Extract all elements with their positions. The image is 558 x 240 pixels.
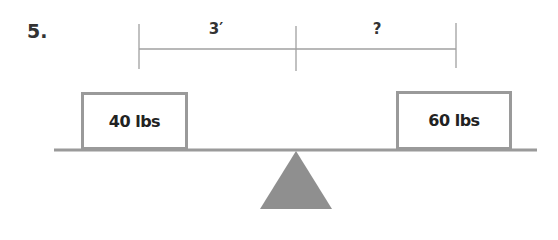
left-weight-box: 40 lbs <box>81 92 188 150</box>
fulcrum-triangle <box>260 151 332 209</box>
problem-number: 5. <box>27 20 47 42</box>
dimension-line <box>139 23 456 71</box>
right-weight-box: 60 lbs <box>396 91 512 150</box>
right-weight-label: 60 lbs <box>428 111 479 130</box>
left-weight-label: 40 lbs <box>109 112 160 131</box>
right-distance-label: ? <box>373 20 382 38</box>
left-distance-label: 3′ <box>209 20 223 38</box>
